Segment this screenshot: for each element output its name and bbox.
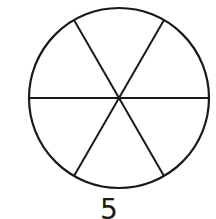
divided-circle-diagram [0,0,216,219]
figure-label: 5 [0,196,216,219]
figure-number: 5 [100,193,118,219]
